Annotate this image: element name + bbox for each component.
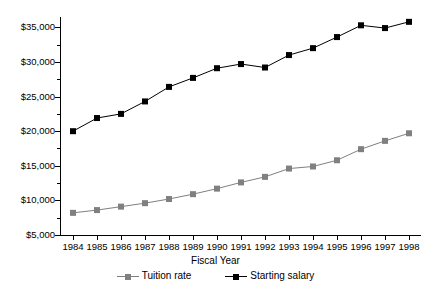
- x-tick-label: 1984: [60, 241, 86, 252]
- series-data-point: [214, 186, 220, 192]
- x-tick-mark: [361, 236, 362, 240]
- series-data-point: [118, 204, 124, 210]
- legend-swatch-icon: [225, 272, 247, 281]
- x-tick-label: 1991: [228, 241, 254, 252]
- series-data-point: [190, 75, 196, 81]
- series-data-point: [166, 196, 172, 202]
- line-chart: $5,000$10,000$15,000$20,000$25,000$30,00…: [0, 0, 431, 292]
- y-tick-mark: [55, 97, 60, 98]
- x-tick-label: 1992: [252, 241, 278, 252]
- x-tick-label: 1985: [84, 241, 110, 252]
- y-tick-mark: [55, 235, 60, 236]
- series-line: [73, 133, 409, 213]
- series-data-point: [142, 98, 148, 104]
- y-tick-label: $30,000: [0, 57, 55, 67]
- series-data-point: [262, 65, 268, 71]
- x-tick-mark: [313, 236, 314, 240]
- plot-area: [61, 17, 421, 235]
- x-tick-mark: [337, 236, 338, 240]
- y-tick-label: $35,000: [0, 22, 55, 32]
- x-tick-mark: [385, 236, 386, 240]
- series-data-point: [238, 61, 244, 67]
- series-data-point: [190, 191, 196, 197]
- x-tick-mark: [241, 236, 242, 240]
- x-tick-label: 1997: [372, 241, 398, 252]
- y-tick-mark: [55, 166, 60, 167]
- x-tick-mark: [265, 236, 266, 240]
- series-data-point: [94, 207, 100, 213]
- series-data-point: [70, 128, 76, 134]
- x-tick-mark: [409, 236, 410, 240]
- y-tick-label: $25,000: [0, 92, 55, 102]
- legend-item[interactable]: Starting salary: [225, 270, 314, 282]
- x-tick-label: 1994: [300, 241, 326, 252]
- x-tick-mark: [121, 236, 122, 240]
- x-tick-mark: [97, 236, 98, 240]
- series-data-point: [382, 138, 388, 144]
- series-data-point: [94, 115, 100, 121]
- y-minor-tick-mark: [57, 114, 60, 115]
- series-data-point: [406, 19, 412, 25]
- series-data-point: [310, 163, 316, 169]
- series-layer: [61, 17, 421, 235]
- y-tick-label: $10,000: [0, 195, 55, 205]
- legend-label: Starting salary: [250, 270, 314, 282]
- x-axis-title: Fiscal Year: [0, 255, 431, 267]
- x-tick-label: 1996: [348, 241, 374, 252]
- x-tick-mark: [145, 236, 146, 240]
- y-tick-mark: [55, 131, 60, 132]
- series-data-point: [238, 179, 244, 185]
- series-data-point: [358, 146, 364, 152]
- series-data-point: [214, 65, 220, 71]
- series-data-point: [334, 157, 340, 163]
- series-data-point: [406, 130, 412, 136]
- series-data-point: [382, 25, 388, 31]
- series-data-point: [334, 34, 340, 40]
- series-data-point: [286, 52, 292, 58]
- x-tick-label: 1990: [204, 241, 230, 252]
- x-tick-label: 1989: [180, 241, 206, 252]
- x-tick-label: 1998: [396, 241, 422, 252]
- x-tick-label: 1988: [156, 241, 182, 252]
- chart-legend: Tuition rateStarting salary: [0, 270, 431, 282]
- x-tick-mark: [193, 236, 194, 240]
- series-data-point: [286, 166, 292, 172]
- y-tick-label: $20,000: [0, 126, 55, 136]
- series-data-point: [142, 200, 148, 206]
- x-tick-mark: [73, 236, 74, 240]
- series-data-point: [166, 84, 172, 90]
- y-minor-tick-mark: [57, 218, 60, 219]
- y-tick-mark: [55, 27, 60, 28]
- series-data-point: [118, 111, 124, 117]
- x-tick-mark: [217, 236, 218, 240]
- x-tick-label: 1993: [276, 241, 302, 252]
- y-tick-mark: [55, 62, 60, 63]
- y-minor-tick-mark: [57, 183, 60, 184]
- y-tick-label: $15,000: [0, 161, 55, 171]
- series-data-point: [70, 210, 76, 216]
- series-data-point: [310, 45, 316, 51]
- y-tick-mark: [55, 200, 60, 201]
- series-data-point: [358, 22, 364, 28]
- legend-swatch-icon: [117, 272, 139, 281]
- y-tick-label: $5,000: [0, 230, 55, 240]
- x-tick-mark: [169, 236, 170, 240]
- series-data-point: [262, 174, 268, 180]
- legend-label: Tuition rate: [142, 270, 192, 282]
- x-tick-label: 1995: [324, 241, 350, 252]
- y-minor-tick-mark: [57, 79, 60, 80]
- x-tick-label: 1987: [132, 241, 158, 252]
- legend-item[interactable]: Tuition rate: [117, 270, 192, 282]
- x-tick-label: 1986: [108, 241, 134, 252]
- x-tick-mark: [289, 236, 290, 240]
- y-minor-tick-mark: [57, 148, 60, 149]
- y-minor-tick-mark: [57, 45, 60, 46]
